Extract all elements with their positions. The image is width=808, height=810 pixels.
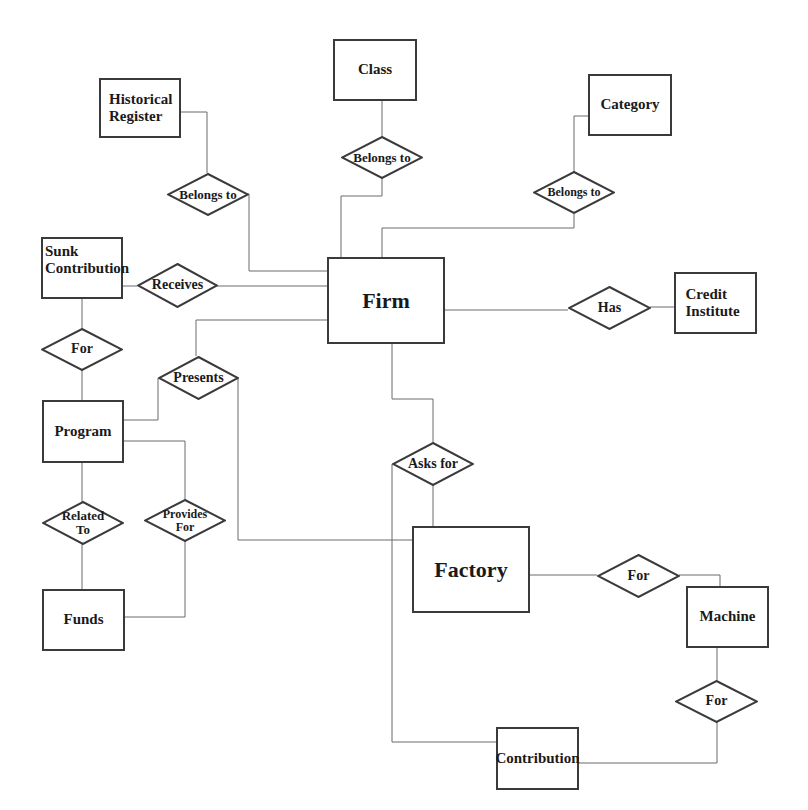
rel-label: For	[628, 569, 650, 584]
edge-firm-asks-for	[392, 343, 433, 442]
rel-presents[interactable]: Presents	[158, 356, 239, 400]
edge-belongs-to-firm-left	[247, 194, 327, 271]
edge-for-contribution	[578, 722, 717, 763]
entity-funds[interactable]: Funds	[42, 589, 125, 651]
edge-program-provides	[123, 441, 185, 499]
rel-label: Receives	[152, 278, 203, 293]
rel-label: Provides For	[160, 508, 210, 533]
entity-machine[interactable]: Machine	[686, 586, 769, 648]
rel-label: Related To	[59, 509, 107, 536]
edge-category-belongs-to-firm	[382, 214, 574, 257]
rel-label: Has	[598, 301, 621, 316]
edge-provides-funds	[124, 541, 185, 617]
rel-label: Belongs to	[179, 188, 236, 202]
entity-label: Funds	[63, 611, 103, 628]
entity-label: Class	[358, 61, 392, 78]
rel-machine-for[interactable]: For	[675, 680, 758, 723]
edge-historical-register-belongs-to	[180, 112, 207, 173]
edge-presents-program	[123, 378, 158, 420]
rel-receives[interactable]: Receives	[137, 263, 218, 308]
entity-label: Sunk Contribution	[45, 243, 123, 278]
rel-sunk-for[interactable]: For	[41, 328, 123, 371]
edge-for-machine	[679, 575, 720, 586]
edge-category-belongs-to	[574, 116, 588, 172]
edge-class-belongs-to-firm	[341, 178, 382, 257]
entity-program[interactable]: Program	[42, 400, 124, 463]
entity-sunk-contribution[interactable]: Sunk Contribution	[41, 237, 123, 299]
rel-provides-for[interactable]: Provides For	[144, 499, 226, 542]
entity-label: Historical Register	[109, 91, 171, 126]
entity-label: Category	[600, 96, 659, 113]
edge-firm-presents	[196, 320, 327, 356]
entity-class[interactable]: Class	[333, 39, 417, 101]
rel-label: For	[706, 694, 728, 709]
rel-asks-for[interactable]: Asks for	[392, 442, 474, 486]
entity-historical-register[interactable]: Historical Register	[99, 78, 181, 138]
rel-class-belongs-to[interactable]: Belongs to	[341, 136, 423, 179]
rel-factory-for[interactable]: For	[597, 554, 680, 598]
rel-label: Presents	[173, 371, 223, 386]
entity-label: Credit Institute	[686, 286, 746, 321]
rel-category-belongs-to[interactable]: Belongs to	[533, 171, 615, 214]
entity-category[interactable]: Category	[588, 74, 672, 136]
rel-label: Belongs to	[353, 151, 410, 165]
entity-contribution[interactable]: Contribution	[496, 727, 579, 790]
rel-related-to[interactable]: Related To	[42, 501, 124, 545]
rel-label: Belongs to	[547, 186, 600, 199]
entity-label: Machine	[700, 608, 756, 625]
edge-presents-factory	[238, 378, 412, 540]
entity-label: Program	[54, 423, 111, 440]
entity-credit-institute[interactable]: Credit Institute	[674, 272, 757, 334]
entity-label: Firm	[362, 288, 410, 313]
rel-has[interactable]: Has	[568, 286, 651, 330]
rel-label: For	[71, 342, 93, 357]
rel-label: Asks for	[408, 457, 458, 472]
entity-label: Factory	[434, 557, 507, 582]
entity-label: Contribution	[495, 750, 579, 767]
rel-historical-register-belongs-to[interactable]: Belongs to	[167, 173, 249, 216]
entity-firm[interactable]: Firm	[327, 257, 445, 344]
entity-factory[interactable]: Factory	[412, 526, 530, 613]
